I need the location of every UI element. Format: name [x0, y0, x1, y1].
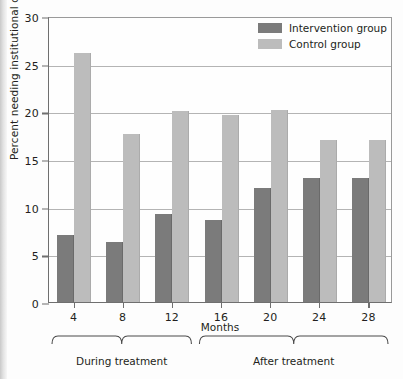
- bar-group: [254, 18, 287, 302]
- y-axis-tick-label: 0: [32, 298, 39, 311]
- x-axis-tick: [172, 302, 173, 308]
- y-axis-tick: [42, 304, 49, 305]
- y-axis-tick: [42, 208, 49, 209]
- legend-item-intervention: Intervention group: [258, 22, 387, 34]
- bar-intervention: [155, 214, 172, 302]
- y-axis-tick: [42, 18, 49, 19]
- bar-group: [205, 18, 238, 302]
- legend-swatch-icon: [258, 23, 282, 33]
- legend-swatch-icon: [258, 39, 282, 49]
- bar-control: [123, 134, 140, 302]
- y-axis-tick-label: 5: [32, 250, 39, 263]
- y-axis-tick: [42, 113, 49, 114]
- chart-legend: Intervention group Control group: [258, 22, 387, 54]
- x-axis-tick: [221, 302, 222, 308]
- x-axis-tick: [270, 302, 271, 308]
- bar-intervention: [57, 235, 74, 302]
- y-axis-tick: [42, 256, 49, 257]
- bracket-label: During treatment: [76, 355, 167, 367]
- bar-control: [172, 111, 189, 302]
- x-axis-tick: [74, 302, 75, 308]
- plot-area: 051015202530481216202428: [48, 17, 392, 303]
- bracket: [52, 336, 191, 344]
- x-axis-title: Months: [48, 321, 392, 333]
- y-axis-tick-label: 15: [25, 155, 39, 168]
- bracket-label: After treatment: [253, 355, 334, 367]
- x-axis-tick: [319, 302, 320, 308]
- legend-label: Control group: [289, 38, 361, 50]
- bar-control: [369, 140, 386, 302]
- treatment-phase-brackets: During treatmentAfter treatment: [0, 333, 403, 379]
- bar-chart: Percent needing institutional care 05101…: [0, 0, 403, 379]
- legend-label: Intervention group: [289, 22, 387, 34]
- legend-item-control: Control group: [258, 38, 387, 50]
- bracket-svg: [0, 333, 403, 379]
- page-edge-shading: [0, 0, 7, 379]
- bar-control: [222, 115, 239, 302]
- bar-intervention: [352, 178, 369, 302]
- y-axis-tick: [42, 161, 49, 162]
- bar-group: [352, 18, 385, 302]
- y-axis-tick: [42, 65, 49, 66]
- bar-control: [320, 140, 337, 302]
- bar-control: [271, 110, 288, 302]
- bar-group: [155, 18, 188, 302]
- x-axis-tick: [123, 302, 124, 308]
- bracket: [199, 336, 388, 344]
- y-axis-title: Percent needing institutional care: [8, 0, 20, 160]
- x-axis-tick: [368, 302, 369, 308]
- bar-intervention: [106, 242, 123, 302]
- bar-group: [303, 18, 336, 302]
- y-axis-tick-label: 20: [25, 107, 39, 120]
- bar-intervention: [254, 188, 271, 302]
- bar-group: [57, 18, 90, 302]
- bar-intervention: [303, 178, 320, 302]
- bar-intervention: [205, 220, 222, 302]
- bar-control: [74, 53, 91, 302]
- bar-group: [106, 18, 139, 302]
- y-axis-tick-label: 10: [25, 202, 39, 215]
- y-axis-tick-label: 25: [25, 59, 39, 72]
- y-axis-tick-label: 30: [25, 12, 39, 25]
